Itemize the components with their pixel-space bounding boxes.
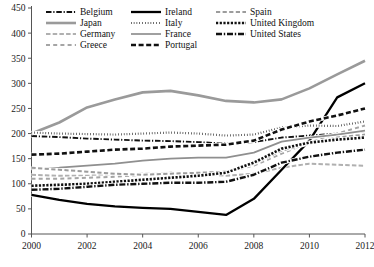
- legend-label-ireland: Ireland: [165, 7, 192, 17]
- y-tick-label: 300: [11, 79, 26, 89]
- y-tick-label: 400: [11, 29, 26, 39]
- x-tick-label: 2008: [244, 241, 263, 251]
- legend-label-united-kingdom: United Kingdom: [250, 18, 315, 28]
- x-axis-ticks: 2000200220042006200820102012: [22, 234, 374, 251]
- series-line-ireland: [32, 83, 366, 215]
- series-halo-japan: [32, 61, 366, 134]
- y-tick-label: 200: [11, 129, 26, 139]
- x-tick-label: 2004: [133, 241, 152, 251]
- legend-label-italy: Italy: [165, 18, 183, 28]
- legend-label-germany: Germany: [80, 29, 116, 39]
- legend-label-united-states: United States: [250, 29, 301, 39]
- legend-label-greece: Greece: [80, 40, 107, 50]
- y-tick-label: 450: [11, 3, 26, 13]
- legend-label-portugal: Portugal: [165, 40, 198, 50]
- line-chart: 050100150200250300350400450 200020022004…: [0, 0, 374, 267]
- legend-label-spain: Spain: [250, 7, 272, 17]
- y-tick-label: 100: [11, 179, 26, 189]
- x-tick-label: 2012: [356, 241, 374, 251]
- x-tick-label: 2006: [189, 241, 208, 251]
- series-lines: [32, 61, 366, 215]
- x-tick-label: 2010: [300, 241, 319, 251]
- legend-label-belgium: Belgium: [80, 7, 113, 17]
- x-tick-label: 2002: [78, 241, 97, 251]
- legend-label-france: France: [165, 29, 191, 39]
- chart-legend: BelgiumJapanGermanyGreeceIrelandItalyFra…: [46, 7, 315, 50]
- y-axis-ticks: 050100150200250300350400450: [11, 3, 31, 239]
- y-tick-label: 0: [21, 229, 26, 239]
- legend-label-japan: Japan: [80, 18, 102, 28]
- y-tick-label: 150: [11, 154, 26, 164]
- y-tick-label: 250: [11, 104, 26, 114]
- y-tick-label: 350: [11, 54, 26, 64]
- series-halo-ireland: [32, 83, 366, 215]
- y-tick-label: 50: [16, 204, 26, 214]
- x-tick-label: 2000: [22, 241, 41, 251]
- chart-canvas: 050100150200250300350400450 200020022004…: [0, 0, 374, 267]
